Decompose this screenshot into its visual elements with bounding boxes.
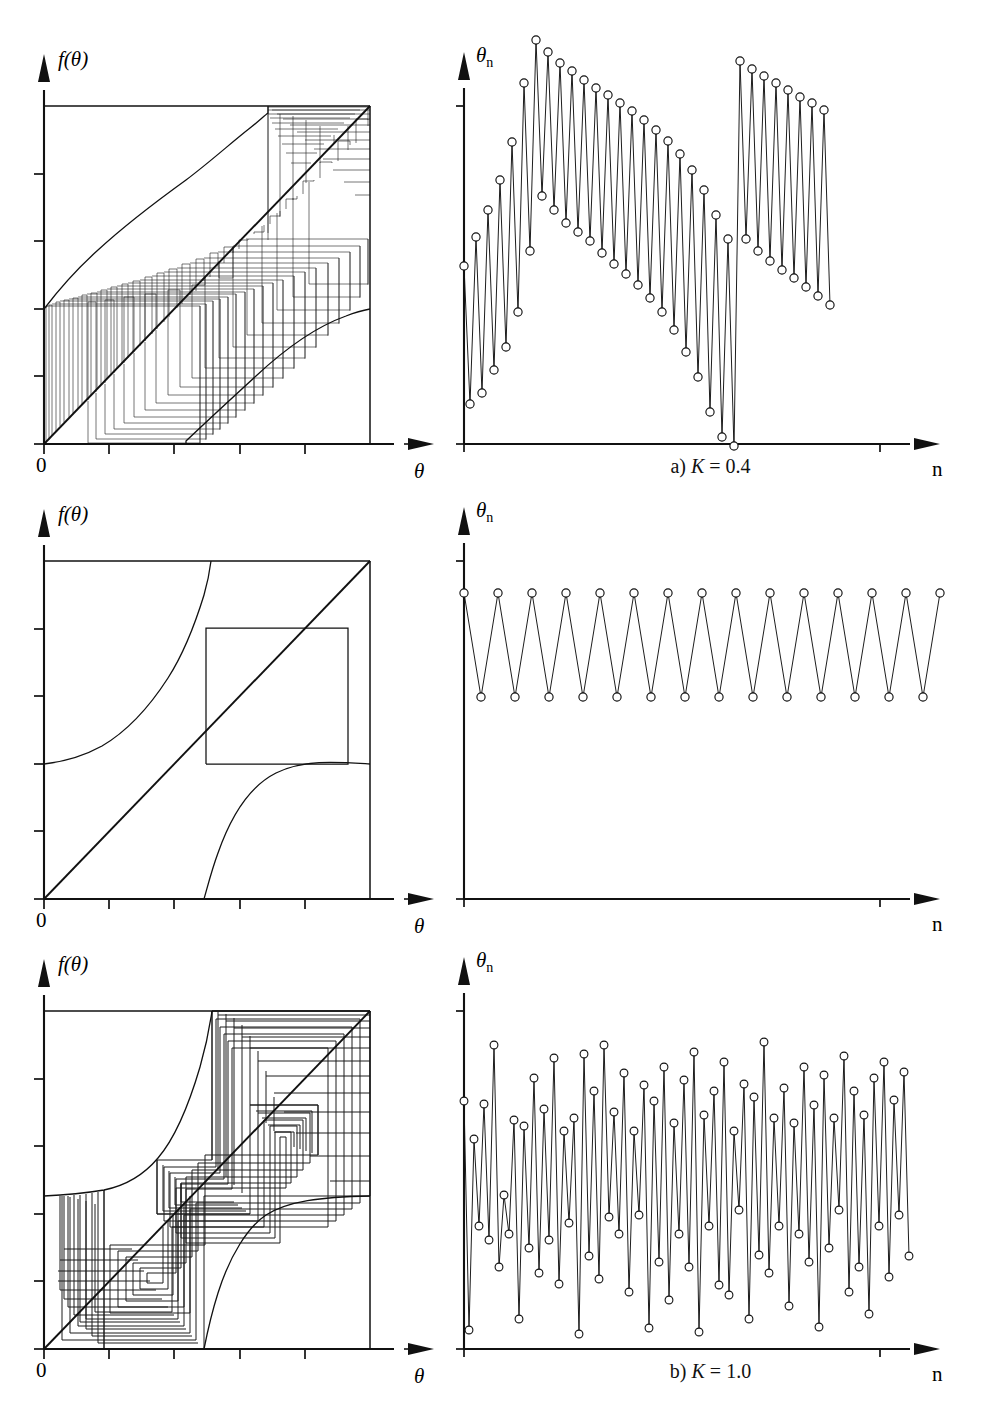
origin-label-c: 0 [36,1358,47,1382]
y-axis-label-c: f(θ) [58,952,88,976]
x-axis-label-c: θ [414,1364,424,1388]
series-svg-c: θn n [440,915,981,1370]
series-svg-a: θn n [440,10,981,465]
y-axis-label-b: f(θ) [58,502,88,526]
cobweb-panel-b: f(θ) θ 0 [0,465,440,920]
cobweb-panel-c: f(θ) θ 0 [0,915,440,1370]
series-panel-b: θn n [440,465,981,920]
series-panel-c: θn n [440,915,981,1370]
cobweb-labels-c: f(θ) θ 0 [0,915,440,1370]
cobweb-labels-b: f(θ) θ 0 [0,465,440,920]
series-svg-b: θn n [440,465,981,920]
y-axis-label-series-b: θn [476,498,493,525]
axes-series-b [456,507,940,907]
y-axis-label-series-a: θn [476,43,493,70]
series-path-c [464,1042,909,1334]
series-panel-a: θn n [440,10,981,465]
figure-row-c: f(θ) θ 0 [0,915,981,1370]
y-axis-label-series-c: θn [476,948,493,975]
figure-row-b: f(θ) θ 0 [0,465,981,920]
series-path-a [464,40,830,449]
cobweb-labels-a: f(θ) θ 0 [0,10,440,465]
figure-root: f(θ) θ 0 [0,0,981,1408]
figure-row-a: f(θ) θ 0 [0,10,981,465]
x-axis-label-series-c: n [932,1362,943,1386]
series-markers-b [460,589,944,701]
cobweb-panel-a: f(θ) θ 0 [0,10,440,465]
series-path-b [464,593,940,697]
y-axis-label-a: f(θ) [58,47,88,71]
